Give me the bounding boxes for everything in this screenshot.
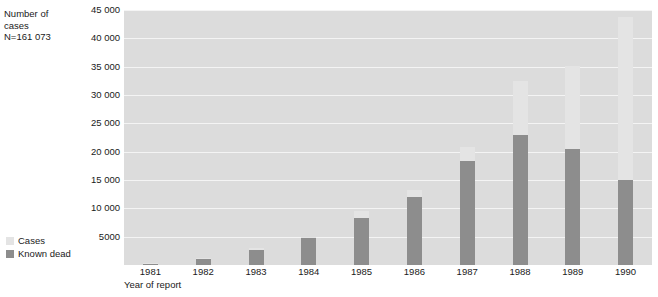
bar-known-dead — [565, 149, 580, 265]
plot-area — [124, 10, 652, 265]
x-axis-tick-label: 1989 — [550, 266, 596, 278]
x-axis-tick-label: 1982 — [180, 266, 226, 278]
x-axis-tick-label: 1988 — [497, 266, 543, 278]
x-axis-tick-label: 1981 — [127, 266, 173, 278]
bar-known-dead — [460, 161, 475, 265]
x-axis-tick-label: 1985 — [339, 266, 385, 278]
bar-known-dead — [618, 180, 633, 265]
y-axis-title: Number of cases N=161 073 — [4, 8, 66, 43]
y-axis-tick-label: 15 000 — [62, 175, 120, 185]
x-axis-tick-label: 1986 — [391, 266, 437, 278]
x-axis-tick-label: 1983 — [233, 266, 279, 278]
y-axis-tick-label: 35 000 — [62, 62, 120, 72]
gridline — [124, 38, 652, 39]
y-axis-tick-label: 20 000 — [62, 147, 120, 157]
y-axis-tick-label: 40 000 — [62, 33, 120, 43]
bar-known-dead — [513, 135, 528, 265]
x-axis-tick-label: 1984 — [286, 266, 332, 278]
legend-swatch-icon — [6, 237, 14, 245]
y-axis-tick-label: 10 000 — [62, 203, 120, 213]
legend-item-label: Cases — [18, 234, 45, 247]
legend-swatch-icon — [6, 250, 14, 258]
bar-known-dead — [143, 264, 158, 265]
gridline — [124, 10, 652, 11]
bar-known-dead — [354, 218, 369, 265]
bar-known-dead — [301, 238, 316, 265]
x-axis-tick-label: 1987 — [444, 266, 490, 278]
y-axis-tick-label: 30 000 — [62, 90, 120, 100]
bar-known-dead — [407, 197, 422, 265]
x-axis-title: Year of report — [124, 279, 181, 290]
y-axis-tick-label: 25 000 — [62, 118, 120, 128]
bar-known-dead — [196, 259, 211, 265]
legend-item: Known dead — [6, 247, 71, 260]
x-axis: 1981198219831984198519861987198819891990 — [124, 266, 652, 282]
legend-item-label: Known dead — [18, 247, 71, 260]
y-axis-tick-label: 45 000 — [62, 5, 120, 15]
bar-known-dead — [249, 250, 264, 265]
x-axis-tick-label: 1990 — [603, 266, 649, 278]
legend-item: Cases — [6, 234, 71, 247]
chart-legend: CasesKnown dead — [6, 234, 71, 260]
